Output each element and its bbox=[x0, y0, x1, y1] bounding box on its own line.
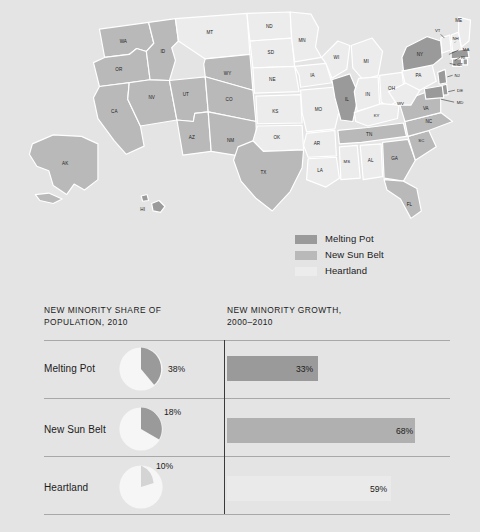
state-label-OK: OK bbox=[273, 135, 281, 140]
state-label-FL: FL bbox=[407, 202, 413, 207]
state-label-LA: LA bbox=[317, 168, 324, 173]
legend-item-new-sun-belt[interactable]: New Sun Belt bbox=[295, 247, 425, 263]
row-label-new-sun-belt: New Sun Belt bbox=[44, 424, 106, 435]
rule-top bbox=[44, 340, 450, 341]
state-label-SC: SC bbox=[418, 138, 424, 143]
pie-value-melting-pot: 38% bbox=[168, 364, 185, 374]
state-label-NM: NM bbox=[227, 138, 234, 143]
state-TX[interactable] bbox=[234, 141, 304, 211]
state-label-MN: MN bbox=[299, 38, 306, 43]
state-label-WI: WI bbox=[334, 55, 340, 60]
state-HI-b[interactable] bbox=[141, 195, 148, 202]
state-label-CO: CO bbox=[226, 97, 233, 102]
state-label-KS: KS bbox=[272, 109, 278, 114]
state-label-CT: CT bbox=[457, 62, 463, 67]
rule-row-1 bbox=[44, 398, 450, 399]
state-label-WA: WA bbox=[120, 39, 128, 44]
left-chart-header-line1: NEW MINORITY SHARE OF bbox=[44, 305, 209, 317]
leader-line-NJ bbox=[447, 75, 452, 76]
rule-bottom bbox=[44, 514, 450, 515]
pie-chart-melting-pot-svg bbox=[118, 346, 164, 392]
state-label-GA: GA bbox=[391, 156, 399, 161]
pie-value-heartland: 10% bbox=[156, 461, 173, 471]
us-choropleth-map: WA OR ID MT ND MN SD WY NV CA UT CO NE I… bbox=[10, 8, 472, 238]
state-label-MO: MO bbox=[315, 107, 323, 112]
state-label-ME: ME bbox=[455, 18, 462, 23]
state-label-MD: MD bbox=[457, 100, 464, 105]
chart-row-new-sun-belt: New Sun Belt 18% 68% bbox=[0, 400, 480, 456]
bar-value-melting-pot: 33% bbox=[296, 364, 313, 374]
state-label-IL: IL bbox=[345, 97, 349, 102]
left-chart-header: NEW MINORITY SHARE OF POPULATION, 2010 bbox=[44, 305, 209, 328]
legend-label-melting-pot: Melting Pot bbox=[325, 234, 374, 244]
legend-swatch-melting-pot bbox=[295, 235, 317, 244]
legend-item-heartland[interactable]: Heartland bbox=[295, 263, 425, 279]
state-label-DE: DE bbox=[457, 88, 463, 93]
state-label-VT: VT bbox=[435, 28, 441, 33]
state-label-WV: WV bbox=[397, 101, 404, 106]
leader-line-MD bbox=[441, 99, 454, 102]
map-legend: Melting Pot New Sun Belt Heartland bbox=[295, 231, 425, 279]
legend-label-new-sun-belt: New Sun Belt bbox=[325, 250, 384, 260]
pie-melting-pot bbox=[118, 346, 164, 392]
pie-value-new-sun-belt: 18% bbox=[164, 407, 181, 417]
state-label-VA: VA bbox=[423, 106, 430, 111]
row-label-melting-pot: Melting Pot bbox=[44, 363, 95, 374]
state-label-AL: AL bbox=[368, 158, 374, 163]
state-label-MI: MI bbox=[364, 59, 369, 64]
state-label-OH: OH bbox=[388, 86, 395, 91]
state-MN[interactable] bbox=[290, 12, 321, 62]
bar-new-sun-belt bbox=[227, 418, 415, 443]
state-label-UT: UT bbox=[183, 92, 189, 97]
right-chart-header-line1: NEW MINORITY GROWTH, bbox=[227, 305, 427, 317]
legend-swatch-new-sun-belt bbox=[295, 251, 317, 260]
bar-value-heartland: 59% bbox=[370, 484, 387, 494]
state-MD[interactable] bbox=[424, 86, 443, 99]
state-label-HI: HI bbox=[140, 207, 145, 212]
state-label-OR: OR bbox=[115, 67, 123, 72]
state-VT[interactable] bbox=[441, 35, 451, 53]
state-label-TX: TX bbox=[260, 170, 266, 175]
legend-swatch-heartland bbox=[295, 267, 317, 276]
chart-row-heartland: Heartland 10% 59% bbox=[0, 458, 480, 514]
charts-panel: NEW MINORITY SHARE OF POPULATION, 2010 N… bbox=[0, 292, 480, 532]
infographic-page: WA OR ID MT ND MN SD WY NV CA UT CO NE I… bbox=[0, 0, 480, 532]
state-label-NC: NC bbox=[425, 119, 432, 124]
bar-heartland bbox=[227, 476, 391, 501]
left-chart-header-line2: POPULATION, 2010 bbox=[44, 317, 209, 329]
state-FL[interactable] bbox=[384, 180, 421, 219]
state-HI[interactable] bbox=[152, 200, 165, 212]
state-label-ID: ID bbox=[160, 49, 165, 54]
state-label-PA: PA bbox=[415, 73, 422, 78]
state-label-KY: KY bbox=[374, 113, 380, 118]
right-chart-header: NEW MINORITY GROWTH, 2000–2010 bbox=[227, 305, 427, 328]
state-label-SD: SD bbox=[268, 50, 275, 55]
us-map-panel: WA OR ID MT ND MN SD WY NV CA UT CO NE I… bbox=[0, 0, 480, 292]
legend-item-melting-pot[interactable]: Melting Pot bbox=[295, 231, 425, 247]
rule-row-2 bbox=[44, 456, 450, 457]
state-label-CA: CA bbox=[111, 109, 118, 114]
state-MT[interactable] bbox=[175, 13, 250, 58]
state-label-RI: RI bbox=[461, 55, 465, 60]
pie-chart-new-sun-belt-svg bbox=[118, 406, 164, 452]
pie-new-sun-belt bbox=[118, 406, 164, 452]
state-label-NH: NH bbox=[452, 36, 458, 41]
row-label-heartland: Heartland bbox=[44, 482, 88, 493]
state-LA[interactable] bbox=[307, 157, 340, 187]
right-chart-header-line2: 2000–2010 bbox=[227, 317, 427, 329]
state-label-MA: MA bbox=[463, 47, 470, 52]
state-NJ[interactable] bbox=[438, 69, 447, 84]
state-label-NE: NE bbox=[269, 77, 275, 82]
state-NE[interactable] bbox=[253, 66, 299, 93]
legend-label-heartland: Heartland bbox=[325, 266, 367, 276]
state-label-AZ: AZ bbox=[189, 135, 195, 140]
state-label-MS: MS bbox=[344, 159, 351, 164]
state-label-NV: NV bbox=[148, 95, 155, 100]
state-label-NY: NY bbox=[417, 52, 423, 57]
leader-line-DE bbox=[448, 90, 455, 91]
state-KS[interactable] bbox=[256, 95, 302, 124]
state-label-IN: IN bbox=[365, 92, 370, 97]
state-label-AR: AR bbox=[314, 141, 321, 146]
state-AK-aleutians[interactable] bbox=[35, 193, 62, 203]
state-label-MT: MT bbox=[206, 30, 213, 35]
